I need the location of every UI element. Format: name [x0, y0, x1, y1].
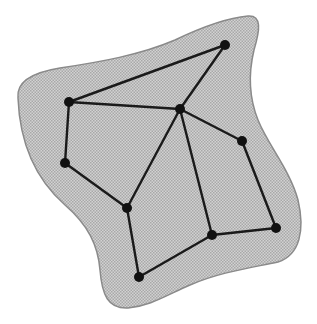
node-D: [237, 136, 247, 146]
node-B: [64, 97, 74, 107]
node-G: [207, 230, 217, 240]
node-A: [220, 40, 230, 50]
graph-diagram: [0, 0, 317, 324]
node-E: [60, 158, 70, 168]
diagram-canvas: Planar graph embedded in a shaded region: [0, 0, 317, 324]
node-C: [175, 104, 185, 114]
node-F: [122, 203, 132, 213]
node-H: [271, 223, 281, 233]
node-I: [134, 272, 144, 282]
